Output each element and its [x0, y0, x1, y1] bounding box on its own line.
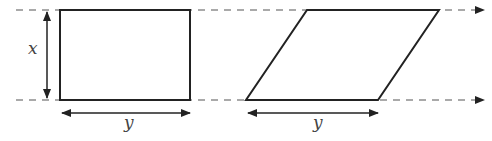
parallelogram-shape [246, 10, 439, 100]
diagram-canvas [0, 0, 492, 141]
para-base-label: y [313, 114, 323, 131]
height-label: x [28, 40, 38, 57]
rect-base-label: y [124, 114, 134, 131]
rectangle-shape [60, 10, 190, 100]
